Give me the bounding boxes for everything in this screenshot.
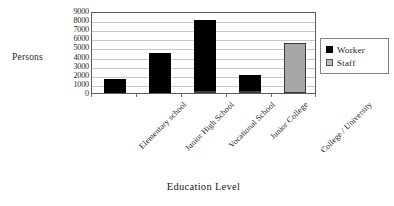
chart-legend: WorkerStaff xyxy=(320,38,389,74)
y-axis-tick-label: 7000 xyxy=(73,26,89,34)
y-axis-tick-label: 4000 xyxy=(73,54,89,62)
legend-item-staff[interactable]: Staff xyxy=(326,56,384,69)
legend-label: Staff xyxy=(337,58,355,68)
bar-chart: Persons 01000200030004000500060007000800… xyxy=(0,0,394,206)
x-axis-tick-mark xyxy=(91,94,92,97)
bar-staff xyxy=(194,91,216,93)
y-axis-tick-label: 6000 xyxy=(73,35,89,43)
y-axis-tick-label: 8000 xyxy=(73,17,89,25)
x-axis-category-labels: Elementary schoolJunior High SchoolVocat… xyxy=(0,98,394,170)
x-axis-tick-mark xyxy=(181,94,182,97)
legend-item-worker[interactable]: Worker xyxy=(326,43,384,56)
legend-swatch-icon xyxy=(326,46,333,53)
bar-worker xyxy=(149,53,171,93)
y-axis-title: Persons xyxy=(12,52,43,62)
y-axis-tick-labels: 0100020003000400050006000700080009000 xyxy=(58,12,89,94)
bar-group xyxy=(182,13,227,93)
y-axis-tick-label: 9000 xyxy=(73,8,89,16)
y-axis-tick-label: 5000 xyxy=(73,44,89,52)
y-axis-tick-label: 2000 xyxy=(73,72,89,80)
bar-series-container xyxy=(92,13,315,93)
plot-area xyxy=(91,12,316,94)
y-axis-tick-label: 3000 xyxy=(73,63,89,71)
y-axis-tick-label: 0 xyxy=(85,90,89,98)
legend-label: Worker xyxy=(337,45,365,55)
x-axis-tick-mark xyxy=(315,94,316,97)
x-axis-title: Education Level xyxy=(91,181,316,192)
x-axis-category-label: Elementary school xyxy=(137,100,188,151)
bar-group xyxy=(272,13,316,93)
bar-staff xyxy=(239,91,261,93)
x-axis-tick-mark xyxy=(136,94,137,97)
bar-worker xyxy=(194,20,216,93)
x-axis-tick-mark xyxy=(226,94,227,97)
legend-swatch-icon xyxy=(326,59,333,66)
bar-group xyxy=(137,13,182,93)
bar-worker xyxy=(104,79,126,93)
y-axis-tick-label: 1000 xyxy=(73,81,89,89)
bar-staff xyxy=(284,43,306,93)
x-axis-tick-mark xyxy=(271,94,272,97)
x-axis-category-label: College / University xyxy=(319,100,374,155)
bar-group xyxy=(92,13,137,93)
bar-group xyxy=(227,13,272,93)
